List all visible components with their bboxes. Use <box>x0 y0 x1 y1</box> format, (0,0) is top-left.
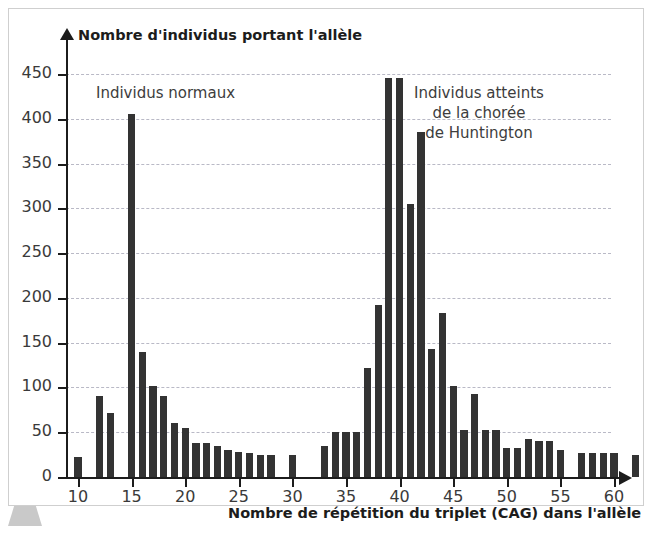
bar <box>267 455 274 477</box>
x-tick-mark <box>239 478 241 487</box>
bar <box>546 441 553 477</box>
bar <box>149 386 156 477</box>
x-tick-mark <box>78 478 80 487</box>
x-tick-label: 30 <box>272 489 312 505</box>
bar <box>96 396 103 477</box>
chart-plot-area: 050100150200250300350400450 101520253035… <box>0 0 656 533</box>
bar <box>332 432 339 477</box>
x-tick-label: 20 <box>165 489 205 505</box>
bar <box>503 448 510 477</box>
x-tick-mark <box>132 478 134 487</box>
bar <box>74 457 81 477</box>
bar <box>439 313 446 477</box>
annotation-individus-atteints: Individus atteints de la chorée de Hunti… <box>414 84 544 143</box>
bar <box>321 446 328 477</box>
bar <box>525 439 532 477</box>
bar <box>460 430 467 477</box>
x-tick-mark <box>560 478 562 487</box>
bar <box>246 453 253 477</box>
x-tick-label: 60 <box>594 489 634 505</box>
bar <box>203 443 210 477</box>
bar <box>589 453 596 477</box>
x-tick-label: 45 <box>433 489 473 505</box>
bar <box>535 441 542 477</box>
x-tick-label: 40 <box>380 489 420 505</box>
bar <box>364 368 371 477</box>
x-axis-line <box>66 477 622 479</box>
annotation-individus-normaux: Individus normaux <box>96 84 235 104</box>
x-tick-mark <box>507 478 509 487</box>
x-tick-mark <box>292 478 294 487</box>
x-tick-mark <box>400 478 402 487</box>
bar <box>450 386 457 477</box>
bar-series <box>0 0 656 479</box>
bar <box>128 114 135 477</box>
x-tick-label: 10 <box>58 489 98 505</box>
bar <box>171 423 178 477</box>
bar <box>342 432 349 477</box>
bar <box>492 430 499 477</box>
bar <box>182 428 189 477</box>
bar <box>428 349 435 477</box>
bar <box>385 78 392 477</box>
x-tick-label: 35 <box>326 489 366 505</box>
bar <box>632 455 639 477</box>
x-tick-mark <box>346 478 348 487</box>
x-tick-label: 55 <box>540 489 580 505</box>
bar <box>471 394 478 477</box>
x-tick-mark <box>453 478 455 487</box>
bar <box>578 453 585 477</box>
bar <box>289 455 296 477</box>
bar <box>353 432 360 477</box>
bar <box>257 455 264 477</box>
bar <box>192 443 199 477</box>
bar <box>514 448 521 477</box>
y-axis-arrow-icon <box>60 28 74 40</box>
x-tick-mark <box>185 478 187 487</box>
bar <box>214 446 221 477</box>
bar <box>139 352 146 477</box>
x-tick-label: 15 <box>112 489 152 505</box>
y-axis-title: Nombre d'individus portant l'allèle <box>78 27 362 43</box>
x-tick-label: 50 <box>487 489 527 505</box>
bar <box>107 413 114 477</box>
bar <box>396 78 403 477</box>
bar <box>407 204 414 477</box>
bar <box>610 453 617 477</box>
bar <box>224 450 231 477</box>
bar <box>600 453 607 477</box>
bar <box>482 430 489 477</box>
x-tick-mark <box>614 478 616 487</box>
bar <box>417 132 424 477</box>
x-axis-title: Nombre de répétition du triplet (CAG) da… <box>228 505 641 521</box>
y-axis-line <box>66 38 68 478</box>
bar <box>235 452 242 477</box>
bar <box>375 305 382 477</box>
x-tick-label: 25 <box>219 489 259 505</box>
bar <box>557 450 564 477</box>
bar <box>160 396 167 477</box>
x-axis-arrow-icon <box>619 471 632 485</box>
